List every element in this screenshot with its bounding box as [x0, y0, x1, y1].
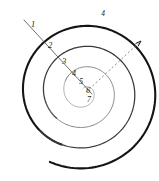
label-6: 6 — [86, 86, 90, 95]
label-4: 4 — [72, 69, 76, 78]
label-5: 5 — [79, 77, 83, 86]
spiral-figure-root: 12345674 — [0, 0, 159, 181]
spiral-figure-canvas: 12345674 — [0, 0, 159, 181]
outward-dashed-arrow-shaft — [86, 41, 141, 92]
label-3: 3 — [61, 56, 66, 66]
turn-number-labels-group: 12345674 — [31, 9, 105, 104]
label-outer-end: 4 — [101, 9, 105, 18]
label-2: 2 — [48, 40, 53, 50]
label-1: 1 — [31, 19, 35, 29]
